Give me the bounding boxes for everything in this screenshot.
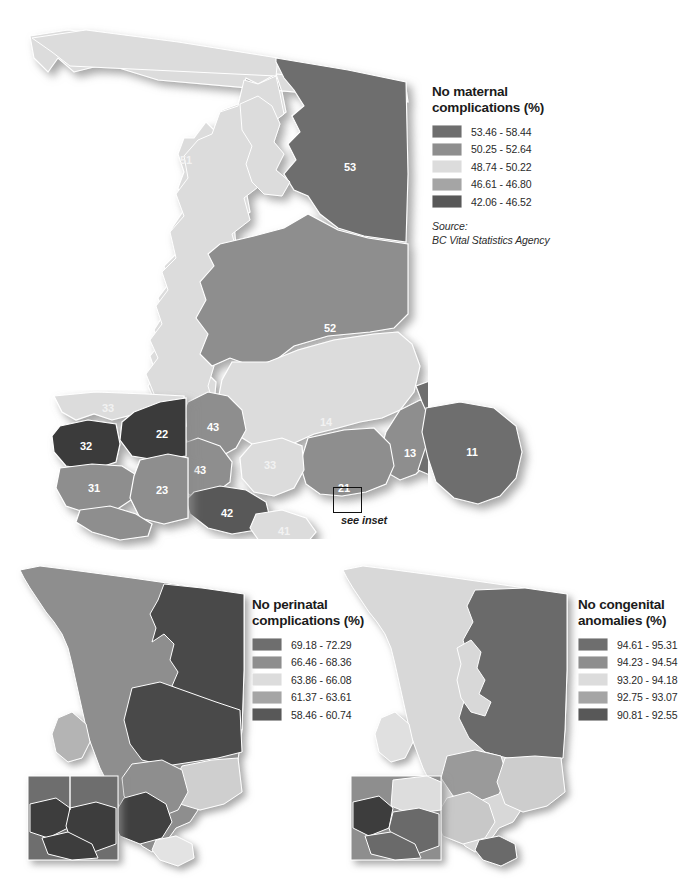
legend-range-label: 48.74 - 50.22 <box>471 161 532 173</box>
legend-swatch <box>432 143 462 156</box>
svg-text:53: 53 <box>344 161 356 173</box>
legend-swatch <box>578 708 608 721</box>
legend-congenital: No congenital anomalies (%) 94.61 - 95.3… <box>578 597 691 725</box>
legend-swatch <box>252 691 282 704</box>
legend-row: 50.25 - 52.64 <box>432 142 612 157</box>
svg-text:14: 14 <box>320 416 333 428</box>
legend-swatch <box>432 125 462 138</box>
congenital-inset <box>351 776 441 860</box>
legend-row: 42.06 - 46.52 <box>432 194 612 209</box>
legend-row: 90.81 - 92.55 <box>578 707 691 722</box>
legend-swatch <box>252 708 282 721</box>
svg-text:52: 52 <box>324 322 336 334</box>
perinatal-island-tip <box>152 836 194 866</box>
svg-text:22: 22 <box>156 428 168 440</box>
legend-swatch <box>578 691 608 704</box>
map-congenital <box>335 560 585 880</box>
perinatal-inset <box>28 776 118 860</box>
legend-swatch <box>432 178 462 191</box>
legend-range-label: 93.20 - 94.18 <box>617 674 678 686</box>
inset-locator-box <box>333 487 362 513</box>
legend-swatch <box>432 195 462 208</box>
svg-text:33: 33 <box>264 459 276 471</box>
map-maternal-inset: 33 22 32 31 23 <box>36 390 226 550</box>
legend-range-label: 42.06 - 46.52 <box>471 196 532 208</box>
legend-row: 48.74 - 50.22 <box>432 159 612 174</box>
legend-swatch <box>578 673 608 686</box>
legend-swatch <box>252 673 282 686</box>
map-inset-svg: 33 22 32 31 23 <box>36 390 226 550</box>
legend-maternal-title: No maternal complications (%) <box>432 84 612 116</box>
legend-range-label: 46.61 - 46.80 <box>471 178 532 190</box>
map-maternal-region-11-wrap: 11 <box>420 400 580 540</box>
legend-range-label: 53.46 - 58.44 <box>471 126 532 138</box>
legend-range-label: 94.61 - 95.31 <box>617 639 678 651</box>
map-perinatal <box>12 560 262 880</box>
legend-swatch <box>432 160 462 173</box>
legend-row: 93.20 - 94.18 <box>578 672 691 687</box>
legend-row: 53.46 - 58.44 <box>432 124 612 139</box>
legend-swatch <box>252 638 282 651</box>
legend-range-label: 50.25 - 52.64 <box>471 143 532 155</box>
svg-text:13: 13 <box>404 447 416 459</box>
svg-text:33: 33 <box>102 402 114 414</box>
legend-range-label: 94.23 - 94.54 <box>617 656 678 668</box>
legend-range-label: 90.81 - 92.55 <box>617 709 678 721</box>
legend-row: 94.23 - 94.54 <box>578 655 691 670</box>
legend-row: 92.75 - 93.07 <box>578 690 691 705</box>
svg-text:41: 41 <box>278 525 290 537</box>
svg-text:51: 51 <box>180 154 192 166</box>
congenital-se <box>497 756 565 812</box>
map-congenital-svg <box>335 560 585 880</box>
legend-congenital-title: No congenital anomalies (%) <box>578 597 691 629</box>
legend-maternal-rows: 53.46 - 58.44 50.25 - 52.64 48.74 - 50.2… <box>432 124 612 209</box>
legend-row: 46.61 - 46.80 <box>432 177 612 192</box>
region-11-svg: 11 <box>420 400 580 540</box>
legend-range-label: 92.75 - 93.07 <box>617 691 678 703</box>
legend-maternal: No maternal complications (%) 53.46 - 58… <box>432 84 612 247</box>
legend-congenital-rows: 94.61 - 95.31 94.23 - 94.54 93.20 - 94.1… <box>578 637 691 722</box>
map-perinatal-svg <box>12 560 262 880</box>
see-inset-label: see inset <box>341 514 387 526</box>
svg-text:31: 31 <box>88 482 100 494</box>
svg-text:23: 23 <box>156 484 168 496</box>
legend-swatch <box>252 656 282 669</box>
congenital-island-tip <box>475 836 517 866</box>
legend-row: 94.61 - 95.31 <box>578 637 691 652</box>
svg-text:32: 32 <box>80 440 92 452</box>
legend-swatch <box>578 656 608 669</box>
svg-text:11: 11 <box>466 446 478 458</box>
region-53 <box>276 58 408 242</box>
legend-source: Source: BC Vital Statistics Agency <box>432 220 612 247</box>
legend-swatch <box>578 638 608 651</box>
